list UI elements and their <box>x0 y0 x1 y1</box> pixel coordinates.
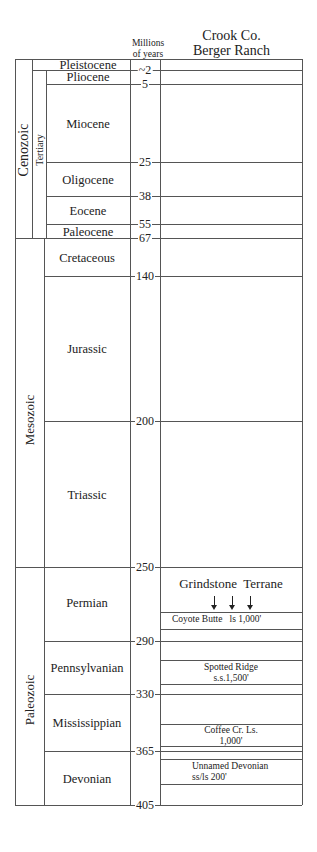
age-tick: 200 <box>135 415 155 427</box>
down-arrow-icon <box>250 596 251 606</box>
age-tick: 140 <box>135 270 155 282</box>
age-tick: 5 <box>141 78 149 90</box>
unit-line <box>160 629 302 630</box>
period-devonian: Devonian <box>44 772 130 786</box>
boundary-5 <box>46 84 302 85</box>
frame-right-border <box>302 59 303 805</box>
unit-line <box>160 784 302 785</box>
unit-detail: 1,000' <box>160 736 302 747</box>
period-eocene: Eocene <box>46 204 130 218</box>
age-tick: ~2 <box>138 64 153 76</box>
boundary-140 <box>44 276 302 277</box>
section-header-line1: Crook Co. <box>161 28 302 43</box>
age-tick: 330 <box>135 688 155 700</box>
boundary-330 <box>44 694 302 695</box>
boundary-200 <box>44 421 302 422</box>
unit-unnamed-devonian: Unnamed Devonian ss/ls 200' <box>192 761 268 783</box>
unit-line <box>160 612 302 613</box>
age-tick: 250 <box>135 561 155 573</box>
age-tick: 67 <box>138 232 152 244</box>
era-label-mesozoic: Mesozoic <box>22 395 38 446</box>
section-header-line2: Berger Ranch <box>161 43 302 58</box>
age-tick: 38 <box>138 190 152 202</box>
era-label-cenozoic: Cenozoic <box>16 124 32 177</box>
period-mississippian: Mississippian <box>44 716 130 730</box>
period-miocene: Miocene <box>46 117 130 131</box>
subera-label-tertiary: Tertiary <box>34 134 45 166</box>
period-oligocene: Oligocene <box>46 173 130 187</box>
unit-coyote-butte: Coyote Butte ls 1,000' <box>172 614 261 625</box>
unit-line <box>160 759 302 760</box>
age-tick: 290 <box>135 635 155 647</box>
period-permian: Permian <box>44 596 130 610</box>
boundary-290 <box>44 641 302 642</box>
terrane-label: Grindstone Terrane <box>160 577 302 591</box>
age-header-line1: Millions <box>131 38 165 49</box>
down-arrow-icon <box>232 596 233 606</box>
unit-coffee-creek: Coffee Cr. Ls. 1,000' <box>160 725 302 747</box>
unit-detail: ss/ls 200' <box>192 772 268 783</box>
boundary-250 <box>15 567 302 568</box>
unit-name: Coffee Cr. Ls. <box>160 725 302 736</box>
period-paleocene: Paleocene <box>46 225 130 239</box>
boundary-25 <box>46 162 302 163</box>
boundary-365 <box>44 751 302 752</box>
period-jurassic: Jurassic <box>44 342 130 356</box>
section-header: Crook Co. Berger Ranch <box>161 28 302 58</box>
period-cretaceous: Cretaceous <box>44 251 130 265</box>
down-arrow-icon <box>214 596 215 606</box>
unit-detail: ls 1,000' <box>230 614 262 624</box>
period-pliocene: Pliocene <box>46 70 130 84</box>
frame-bottom-border <box>15 805 302 806</box>
unit-spotted-ridge: Spotted Ridge s.s.1,500' <box>160 662 302 684</box>
unit-line <box>160 684 302 685</box>
age-tick: 55 <box>138 218 152 230</box>
unit-line <box>160 660 302 661</box>
age-tick: 405 <box>135 799 155 811</box>
age-tick: 365 <box>135 745 155 757</box>
unit-detail: s.s.1,500' <box>160 673 302 684</box>
age-tick: 25 <box>138 156 152 168</box>
boundary-38 <box>46 196 302 197</box>
period-triassic: Triassic <box>44 488 130 502</box>
unit-name: Coyote Butte <box>172 614 222 624</box>
age-column-header: Millions of years <box>131 38 165 60</box>
era-label-paleozoic: Paleozoic <box>22 675 38 726</box>
unit-name: Unnamed Devonian <box>192 761 268 772</box>
period-pennsylvanian: Pennsylvanian <box>44 661 130 675</box>
unit-name: Spotted Ridge <box>160 662 302 673</box>
